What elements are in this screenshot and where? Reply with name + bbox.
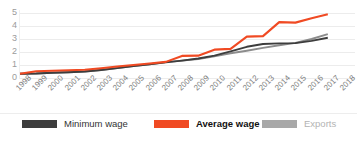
legend-label-average-wage: Average wage [196, 118, 260, 129]
legend-swatch-minimum-wage [22, 120, 57, 128]
chart-legend: Minimum wage Average wage Exports [0, 113, 357, 142]
series-line-minimum-wage [20, 38, 328, 74]
legend-label-minimum-wage: Minimum wage [64, 118, 128, 129]
legend-swatch-exports [262, 120, 297, 128]
line-chart: 012345 199819992000200120022003200420052… [0, 0, 357, 142]
legend-swatch-average-wage [154, 120, 189, 128]
x-axis-labels: 1998199920002001200220032004200520062007… [0, 80, 357, 110]
series-line-exports [20, 34, 328, 74]
legend-divider [0, 113, 357, 114]
legend-label-exports: Exports [304, 118, 336, 129]
legend-item-average-wage[interactable]: Average wage [154, 118, 260, 129]
legend-item-exports[interactable]: Exports [262, 118, 336, 129]
legend-item-minimum-wage[interactable]: Minimum wage [22, 118, 128, 129]
